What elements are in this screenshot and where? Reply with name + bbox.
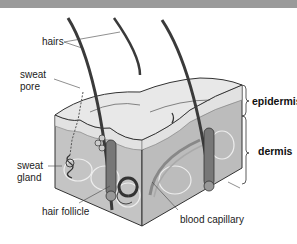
label-hair-follicle: hair follicle xyxy=(42,206,89,218)
label-hairs: hairs xyxy=(42,36,64,48)
layer-braces xyxy=(242,85,249,184)
label-dermis: dermis xyxy=(258,145,292,157)
label-sweat-pore-1: sweat xyxy=(20,69,46,81)
label-sweat-gland-2: gland xyxy=(17,172,41,184)
label-sweat-gland-1: sweat xyxy=(17,160,43,172)
label-epidermis: epidermis xyxy=(252,95,297,107)
label-blood-capillary: blood capillary xyxy=(180,214,244,226)
label-sweat-pore-2: pore xyxy=(20,81,40,93)
